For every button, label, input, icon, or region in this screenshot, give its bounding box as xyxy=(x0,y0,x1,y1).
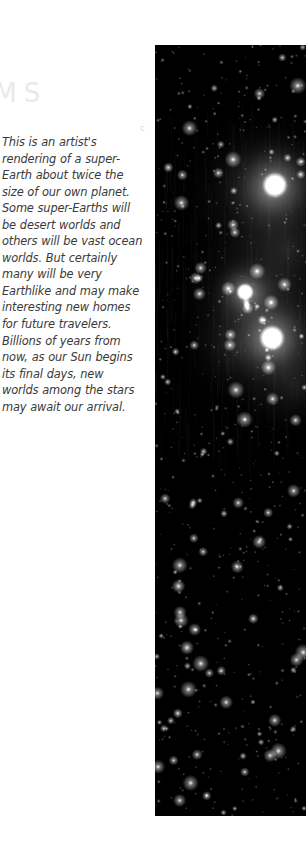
body-line: size of our own planet. xyxy=(2,185,130,199)
body-line: worlds. But certainly xyxy=(2,251,117,265)
starfield-image xyxy=(155,45,306,816)
body-line: interesting new homes xyxy=(2,300,130,314)
body-paragraph: This is an artist'srendering of a super-… xyxy=(2,134,148,415)
body-line: Earth about twice the xyxy=(2,168,123,182)
body-line: Billions of years from xyxy=(2,334,120,348)
body-line: Some super-Earths will xyxy=(2,201,130,215)
body-line: others will be vast ocean xyxy=(2,234,142,248)
body-line: Earthlike and may make xyxy=(2,284,139,298)
body-line: worlds among the stars xyxy=(2,383,134,397)
text-column: TEMS c This is an artist'srendering of a… xyxy=(0,0,150,861)
body-line: now, as our Sun begins xyxy=(2,350,132,364)
body-line: This is an artist's xyxy=(2,135,97,149)
copyright-mark-icon: c xyxy=(138,124,147,133)
section-heading: TEMS xyxy=(0,78,148,108)
body-line: for future travelers. xyxy=(2,317,111,331)
page-root: TEMS c This is an artist'srendering of a… xyxy=(0,0,306,861)
body-line: rendering of a super- xyxy=(2,152,120,166)
body-line: be desert worlds and xyxy=(2,218,120,232)
body-line: its final days, new xyxy=(2,367,103,381)
starfield-canvas xyxy=(155,45,306,816)
body-line: may await our arrival. xyxy=(2,400,125,414)
body-line: many will be very xyxy=(2,267,102,281)
